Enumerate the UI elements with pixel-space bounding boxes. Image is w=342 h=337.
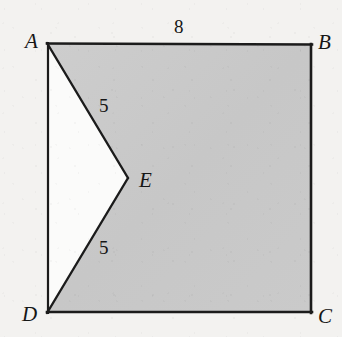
- measure-label-top-edge: 8: [174, 17, 184, 36]
- vertex-label-e: E: [139, 170, 152, 191]
- vertex-label-d: D: [22, 304, 37, 325]
- measure-label-lower-side: 5: [99, 238, 109, 257]
- measure-label-upper-side: 5: [99, 96, 109, 115]
- vertex-label-b: B: [318, 32, 331, 53]
- vertex-label-c: C: [318, 306, 332, 327]
- vertex-label-a: A: [25, 31, 38, 52]
- geometry-figure: A B C D E 8 5 5: [0, 0, 342, 337]
- edge-AB: [47, 44, 312, 45]
- diagram-canvas: [0, 0, 342, 337]
